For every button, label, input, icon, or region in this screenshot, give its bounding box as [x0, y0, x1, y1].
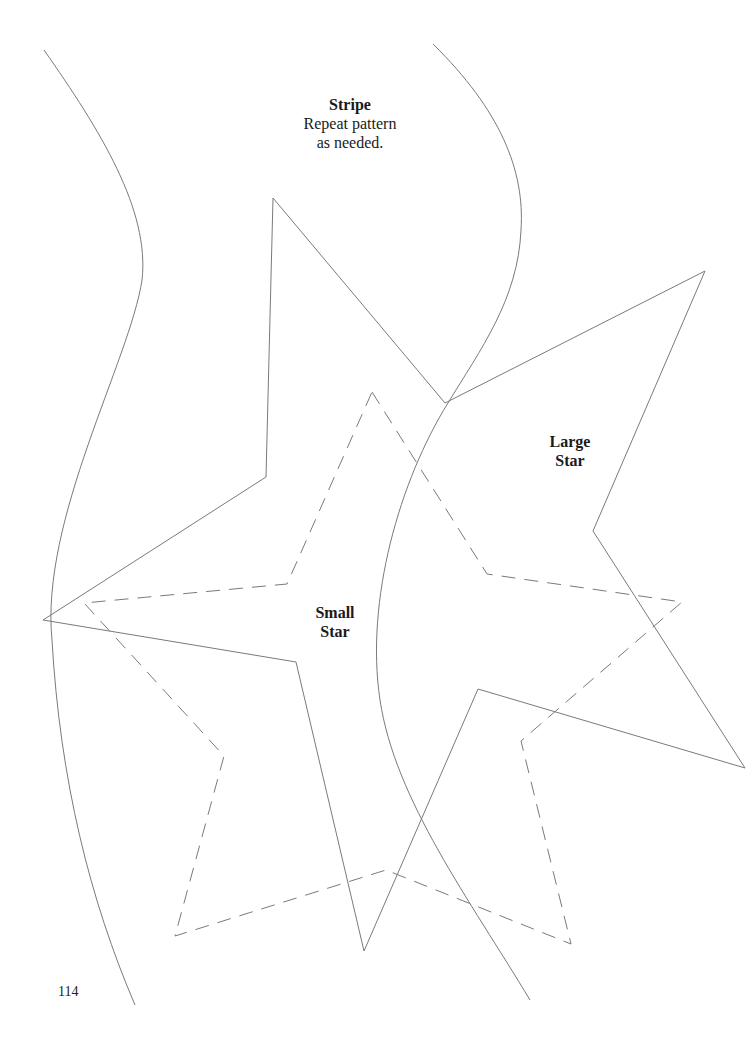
small-star-label: Small Star: [295, 603, 375, 641]
pattern-artwork: [0, 0, 747, 1040]
small-star-label-line1: Small: [295, 603, 375, 622]
stripe-label: Stripe Repeat pattern as needed.: [260, 95, 440, 152]
stripe-title: Stripe: [260, 95, 440, 114]
large-star-label-line2: Star: [530, 451, 610, 470]
page-number: 114: [58, 984, 78, 1000]
large-star-outline: [43, 198, 745, 951]
pattern-page: Stripe Repeat pattern as needed. Large S…: [0, 0, 747, 1040]
stripe-right-edge: [376, 44, 530, 1000]
small-star-label-line2: Star: [295, 622, 375, 641]
stripe-left-edge: [44, 50, 143, 1005]
stripe-instruction-line2: as needed.: [260, 133, 440, 152]
stripe-instruction-line1: Repeat pattern: [260, 114, 440, 133]
small-star-outline: [84, 392, 682, 944]
large-star-label-line1: Large: [530, 432, 610, 451]
large-star-label: Large Star: [530, 432, 610, 470]
